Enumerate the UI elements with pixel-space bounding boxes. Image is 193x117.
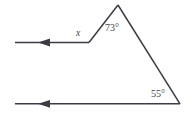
upper-ray-arrowhead-icon <box>38 39 50 47</box>
label-unknown-angle-x: x <box>75 28 81 38</box>
label-base-angle-55: 55° <box>151 88 165 99</box>
figure-canvas: x 73° 55° <box>0 0 193 117</box>
geometry-figure: x 73° 55° <box>0 0 193 117</box>
label-apex-angle-73: 73° <box>105 22 119 33</box>
triangle-right-leg <box>118 5 180 104</box>
lower-ray-arrowhead-icon <box>38 100 50 108</box>
